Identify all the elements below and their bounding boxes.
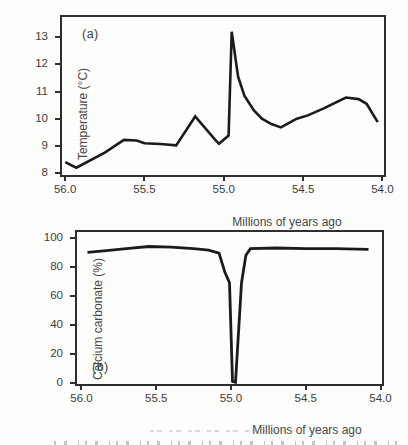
chart-a-y-tick [55,145,62,147]
chart-a-x-tick-label: 54.5 [285,183,321,195]
chart-b-y-tick-label: 60 [31,289,63,301]
chart-b-x-tick [155,384,157,390]
chart-b-y-tick [70,266,77,268]
chart-b-calcium-carbonate-panel: (b) Calcium carbonate (%) Millions of ye… [0,222,408,437]
chart-b-y-tick-label: 80 [31,260,63,272]
chart-b-x-tick-label: 55.0 [213,392,249,404]
chart-b-line-series [77,232,382,384]
chart-b-plot-area: (b) Calcium carbonate (%) Millions of ye… [75,230,384,386]
two-panel-line-figure: (a) Temperature (°C) Millions of years a… [0,0,408,445]
chart-b-x-tick [230,384,232,390]
chart-a-x-tick [223,175,225,181]
chart-b-y-tick-label: 20 [31,347,63,359]
chart-a-x-tick-label: 55.5 [126,183,162,195]
chart-b-y-tick [70,382,77,384]
chart-a-y-tick [55,172,62,174]
chart-a-y-tick-label: 8 [16,166,48,178]
chart-b-y-tick-label: 40 [31,318,63,330]
chart-a-x-tick-label: 54.0 [364,183,400,195]
chart-b-x-tick-label: 54.0 [363,392,399,404]
chart-a-temperature-panel: (a) Temperature (°C) Millions of years a… [0,0,408,222]
chart-a-x-tick-label: 55.0 [206,183,242,195]
chart-a-y-tick-label: 9 [16,139,48,151]
chart-a-y-tick-label: 10 [16,112,48,124]
chart-b-x-tick-label: 55.5 [138,392,174,404]
cropped-caption-fragment-lower [54,441,404,445]
chart-b-y-tick [70,353,77,355]
chart-a-y-tick-label: 12 [16,57,48,69]
chart-a-y-tick [55,118,62,120]
chart-a-y-tick [55,36,62,38]
chart-b-x-tick [80,384,82,390]
chart-a-y-tick-label: 13 [16,30,48,42]
chart-a-y-tick [55,91,62,93]
chart-b-x-tick-label: 56.0 [63,392,99,404]
chart-a-x-tick [143,175,145,181]
chart-a-x-tick [302,175,304,181]
chart-b-y-axis-title: Calcium carbonate (%) [91,234,105,404]
chart-a-y-tick [55,63,62,65]
chart-b-y-tick-label: 100 [31,231,63,243]
chart-b-y-tick [70,324,77,326]
chart-a-y-tick-label: 11 [16,85,48,97]
chart-b-data-line [88,247,369,383]
chart-a-line-series [62,17,384,175]
chart-a-x-tick [64,175,66,181]
chart-b-x-tick-label: 54.5 [288,392,324,404]
chart-a-plot-area: (a) Temperature (°C) Millions of years a… [60,15,386,177]
cropped-caption-fragment-upper [150,430,285,432]
chart-a-y-axis-title: Temperature (°C) [76,29,90,199]
chart-a-data-line [65,32,378,168]
chart-b-x-tick [305,384,307,390]
chart-b-y-tick-label: 0 [31,376,63,388]
chart-b-y-tick [70,295,77,297]
chart-a-x-tick [381,175,383,181]
chart-b-x-tick [380,384,382,390]
chart-b-y-tick [70,237,77,239]
chart-a-x-tick-label: 56.0 [47,183,83,195]
